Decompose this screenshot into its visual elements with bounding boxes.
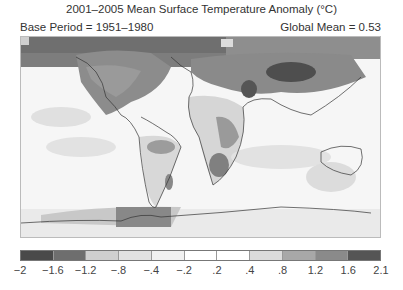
tick-label: 1.2 (308, 264, 323, 276)
chart-title: 2001–2005 Mean Surface Temperature Anoma… (0, 3, 403, 15)
colorbar-bin (54, 251, 87, 260)
colorbar (20, 250, 381, 261)
tick-label: 2.1 (373, 264, 388, 276)
colorbar-bin (348, 251, 380, 260)
colorbar-bin (283, 251, 316, 260)
colorbar-bin (316, 251, 349, 260)
tick-label: −.2 (176, 264, 192, 276)
world-map-graphic (21, 37, 381, 238)
base-period-label: Base Period = 1951–1980 (20, 21, 153, 33)
colorbar-bin (86, 251, 119, 260)
colorbar-ticks: −2 −1.6 −1.2 −.8 −.4 −.2 .2 .4 .8 1.2 1.… (20, 264, 381, 278)
colorbar-bin (185, 251, 218, 260)
tick-label: −1.6 (42, 264, 64, 276)
tick-label: −2 (14, 264, 27, 276)
colorbar-bin (217, 251, 250, 260)
tick-label: −.8 (111, 264, 127, 276)
tick-label: .4 (245, 264, 254, 276)
colorbar-bin (250, 251, 283, 260)
colorbar-bin (152, 251, 185, 260)
tick-label: .8 (278, 264, 287, 276)
tick-label: −1.2 (75, 264, 97, 276)
global-mean-label: Global Mean = 0.53 (280, 21, 381, 33)
colorbar-bin (21, 251, 54, 260)
tick-label: 1.6 (341, 264, 356, 276)
tick-label: .2 (212, 264, 221, 276)
anomaly-map (20, 36, 381, 238)
colorbar-bin (119, 251, 152, 260)
tick-label: −.4 (143, 264, 159, 276)
